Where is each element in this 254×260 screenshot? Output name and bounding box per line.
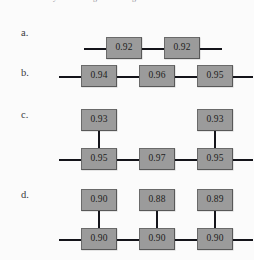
node-b-1: 0.94 bbox=[81, 65, 117, 87]
wire-d-riser-2 bbox=[156, 211, 158, 228]
wire-c-lead-out bbox=[233, 159, 253, 161]
clipped-header-text: reliability block diagram configurations bbox=[0, 0, 254, 9]
node-a-1: 0.92 bbox=[106, 37, 142, 59]
row-label-c: c. bbox=[21, 110, 28, 121]
reliability-block-diagram-figure: reliability block diagram configurations… bbox=[0, 0, 254, 260]
wire-a-lead-out bbox=[200, 48, 222, 50]
node-c-3: 0.95 bbox=[197, 148, 233, 170]
row-label-a: a. bbox=[21, 28, 28, 39]
wire-d-lead-out bbox=[233, 239, 253, 241]
node-c-top-1: 0.93 bbox=[81, 109, 117, 131]
wire-d-riser-3 bbox=[214, 211, 216, 228]
wire-c-riser-1 bbox=[98, 131, 100, 148]
wire-d-link-1 bbox=[117, 239, 139, 241]
node-d-top-3: 0.89 bbox=[197, 189, 233, 211]
node-c-2: 0.97 bbox=[139, 148, 175, 170]
node-a-2: 0.92 bbox=[164, 37, 200, 59]
wire-d-lead-in bbox=[59, 239, 81, 241]
wire-c-lead-in bbox=[59, 159, 81, 161]
wire-b-lead-out bbox=[233, 76, 253, 78]
wire-b-link-2 bbox=[175, 76, 197, 78]
diagram-row-c: c. 0.93 0.93 0.95 0.97 0.95 bbox=[0, 104, 254, 174]
row-label-d: d. bbox=[21, 190, 29, 201]
wire-c-link-1 bbox=[117, 159, 139, 161]
node-c-top-3: 0.93 bbox=[197, 109, 233, 131]
node-c-1: 0.95 bbox=[81, 148, 117, 170]
diagram-row-b: b. 0.94 0.96 0.95 bbox=[0, 58, 254, 98]
node-b-3: 0.95 bbox=[197, 65, 233, 87]
wire-d-link-2 bbox=[175, 239, 197, 241]
wire-a-lead-in bbox=[84, 48, 106, 50]
wire-c-riser-3 bbox=[214, 131, 216, 148]
wire-a-link-1 bbox=[142, 48, 164, 50]
clipped-header-text-label: reliability block diagram configurations bbox=[22, 0, 165, 2]
row-label-b: b. bbox=[21, 68, 29, 79]
wire-b-link-1 bbox=[117, 76, 139, 78]
wire-c-link-2 bbox=[175, 159, 197, 161]
wire-b-lead-in bbox=[59, 76, 81, 78]
node-d-1: 0.90 bbox=[81, 228, 117, 250]
node-b-2: 0.96 bbox=[139, 65, 175, 87]
diagram-row-a: a. 0.92 0.92 bbox=[0, 16, 254, 56]
node-d-top-1: 0.90 bbox=[81, 189, 117, 211]
wire-d-riser-1 bbox=[98, 211, 100, 228]
diagram-row-d: d. 0.90 0.88 0.89 0.90 0.90 0.90 bbox=[0, 184, 254, 254]
node-d-2: 0.90 bbox=[139, 228, 175, 250]
node-d-3: 0.90 bbox=[197, 228, 233, 250]
node-d-top-2: 0.88 bbox=[139, 189, 175, 211]
